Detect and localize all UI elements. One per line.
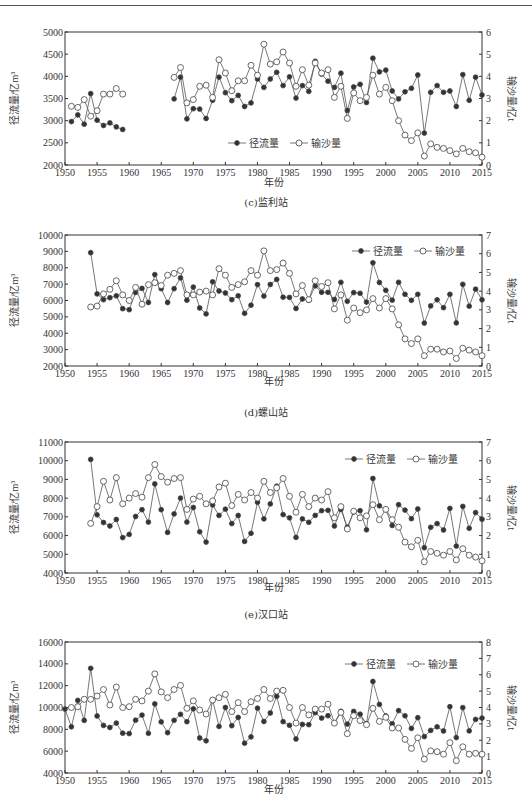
runoff-point [403, 89, 408, 94]
y-tick-label: 2500 [43, 137, 63, 148]
x-tick-label: 2000 [376, 775, 396, 786]
runoff-point [460, 504, 465, 509]
chart-jianli: 1950195519601965197019751980198519901995… [0, 0, 532, 210]
x-axis-title: 年份 [264, 581, 284, 593]
y2-tick-label: 4 [486, 286, 491, 297]
runoff-point [467, 304, 472, 309]
x-tick-label: 1960 [119, 775, 139, 786]
x-tick-label: 1975 [215, 775, 235, 786]
sediment-point [408, 138, 414, 144]
sediment-point [460, 145, 466, 151]
runoff-point [428, 304, 433, 309]
y-tick-label: 4000 [43, 71, 63, 82]
sediment-point [312, 706, 318, 712]
runoff-point [223, 507, 228, 512]
runoff-point [428, 525, 433, 530]
caption-hankou: (e)汉口站 [0, 606, 532, 621]
x-tick-label: 2000 [376, 368, 396, 379]
sediment-point [203, 711, 209, 717]
sediment-point [453, 557, 459, 563]
sediment-point [178, 682, 184, 688]
sediment-point [396, 725, 402, 731]
runoff-point [152, 272, 157, 277]
runoff-point [69, 119, 74, 124]
sediment-point [267, 268, 273, 274]
runoff-point [165, 300, 170, 305]
sediment-point [293, 291, 299, 297]
x-tick-label: 1960 [119, 575, 139, 586]
sediment-point [101, 291, 107, 297]
runoff-point [146, 731, 151, 736]
runoff-point [274, 277, 279, 282]
sediment-point [460, 345, 466, 351]
sediment-point [479, 558, 485, 564]
runoff-point [114, 125, 119, 130]
sediment-point [415, 537, 421, 543]
sediment-point [107, 497, 113, 503]
y-tick-label: 9000 [43, 246, 63, 257]
runoff-point [101, 723, 106, 728]
sediment-point [364, 722, 370, 728]
sediment-point [158, 474, 164, 480]
runoff-point [274, 70, 279, 75]
y2-tick-label: 2 [486, 530, 491, 541]
sediment-point [287, 60, 293, 66]
runoff-point [178, 496, 183, 501]
sediment-point [197, 493, 203, 499]
sediment-point [441, 751, 447, 757]
sediment-point [453, 758, 459, 764]
runoff-point [75, 113, 80, 118]
y-tick-label: 3000 [43, 115, 63, 126]
sediment-point [383, 714, 389, 720]
runoff-point [88, 91, 93, 96]
runoff-point [326, 79, 331, 84]
x-tick-label: 1955 [87, 368, 107, 379]
legend-sediment-label: 输沙量 [435, 245, 465, 257]
runoff-point [159, 720, 164, 725]
sediment-point [139, 698, 145, 704]
runoff-point [396, 97, 401, 102]
runoff-point [95, 292, 100, 297]
sediment-point [88, 304, 94, 310]
runoff-point [172, 512, 177, 517]
y2-axis-title: 输沙量/亿t [506, 278, 518, 324]
sediment-point [210, 498, 216, 504]
x-tick-label: 1990 [312, 167, 332, 178]
runoff-point [268, 77, 273, 82]
sediment-point [453, 151, 459, 157]
sediment-point [152, 462, 158, 468]
sediment-point [229, 503, 235, 509]
sediment-point [447, 740, 453, 746]
runoff-point [185, 520, 190, 525]
sediment-point [210, 94, 216, 100]
y-tick-label: 12000 [38, 680, 63, 691]
sediment-point [248, 62, 254, 68]
y2-tick-label: 5 [486, 49, 491, 60]
runoff-point [191, 106, 196, 111]
y2-tick-label: 4 [486, 493, 491, 504]
runoff-point [178, 712, 183, 717]
x-tick-label: 2000 [376, 167, 396, 178]
sediment-point [364, 307, 370, 313]
runoff-point [377, 280, 382, 285]
sediment-point [88, 113, 94, 119]
caption-luoshan: (d)螺山站 [0, 404, 532, 419]
y2-tick-label: 0 [486, 361, 491, 372]
runoff-point [242, 311, 247, 316]
sediment-point [408, 341, 414, 347]
runoff-point [441, 90, 446, 95]
sediment-point [216, 266, 222, 272]
y-tick-label: 4000 [43, 328, 63, 339]
sediment-point [299, 705, 305, 711]
sediment-point [351, 713, 357, 719]
runoff-point [152, 482, 157, 487]
runoff-point [229, 98, 234, 103]
x-tick-label: 2010 [440, 775, 460, 786]
runoff-point [268, 711, 273, 716]
sediment-point [364, 513, 370, 519]
sediment-point [222, 691, 228, 697]
legend-sediment-marker [420, 248, 426, 254]
sediment-point [184, 506, 190, 512]
y-tick-label: 6000 [43, 746, 63, 757]
runoff-point [415, 292, 420, 297]
